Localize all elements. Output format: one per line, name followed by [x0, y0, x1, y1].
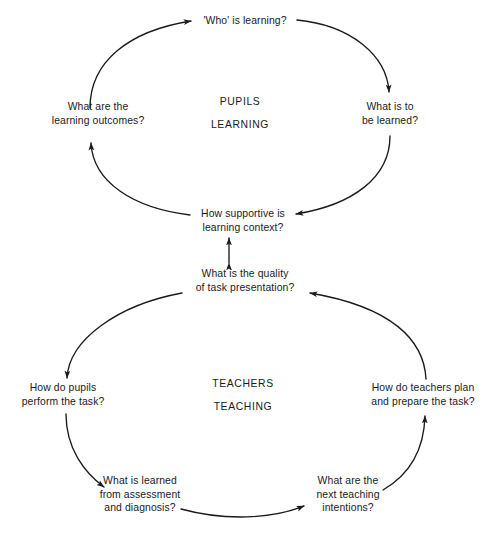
- node-who-is-learning-line1: 'Who' is learning?: [203, 14, 286, 28]
- node-what-are-learning-outcomes: What are the learning outcomes?: [52, 100, 145, 127]
- arc-bottom-left-upper: [67, 293, 182, 378]
- node-next-teaching-line1: What are the: [316, 474, 379, 488]
- diagram-canvas: 'Who' is learning? What is to be learned…: [0, 0, 488, 538]
- node-learning-outcomes-line1: What are the: [52, 100, 145, 114]
- arc-bottom-right-upper: [310, 293, 426, 379]
- node-what-is-to-be-learned-line2: be learned?: [362, 114, 418, 128]
- node-next-teaching-line2: next teaching: [316, 487, 379, 501]
- arc-bottom-left-lower: [66, 414, 104, 487]
- hub-learning-label: LEARNING: [211, 118, 269, 132]
- node-task-presentation-line2: of task presentation?: [196, 281, 295, 295]
- hub-teaching-label: TEACHING: [212, 400, 274, 414]
- node-how-supportive-line2: learning context?: [201, 221, 285, 235]
- hub-teachers-label: TEACHERS: [212, 377, 274, 391]
- hub-label-pupils-learning: PUPILS LEARNING: [211, 95, 269, 131]
- node-learning-outcomes-line2: learning outcomes?: [52, 114, 145, 128]
- node-quality-of-task-presentation: What is the quality of task presentation…: [196, 267, 295, 294]
- arc-top-left-upper: [90, 21, 191, 108]
- node-how-do-pupils-perform-task: How do pupils perform the task?: [22, 381, 105, 408]
- node-how-supportive-line1: How supportive is: [201, 207, 285, 221]
- node-who-is-learning: 'Who' is learning?: [203, 14, 286, 28]
- arc-bottom-bottom: [181, 506, 304, 517]
- node-what-is-learned-line3: and diagnosis?: [100, 501, 181, 515]
- node-next-teaching-intentions: What are the next teaching intentions?: [316, 474, 379, 515]
- arc-top-right-lower: [296, 136, 390, 214]
- hub-label-teachers-teaching: TEACHERS TEACHING: [212, 377, 274, 413]
- node-task-presentation-line1: What is the quality: [196, 267, 295, 281]
- arc-top-left-lower: [91, 143, 190, 215]
- node-teachers-plan-line1: How do teachers plan: [371, 381, 474, 395]
- node-what-is-learned-line2: from assessment: [100, 487, 181, 501]
- node-what-is-to-be-learned: What is to be learned?: [362, 100, 418, 127]
- node-teachers-plan-line2: and prepare the task?: [371, 395, 474, 409]
- hub-pupils-label: PUPILS: [211, 95, 269, 109]
- arc-top-right-upper: [297, 20, 389, 92]
- node-next-teaching-line3: intentions?: [316, 501, 379, 515]
- node-what-is-learned-from-assessment: What is learned from assessment and diag…: [100, 474, 181, 515]
- node-what-is-learned-line1: What is learned: [100, 474, 181, 488]
- node-pupils-perform-line2: perform the task?: [22, 395, 105, 409]
- node-pupils-perform-line1: How do pupils: [22, 381, 105, 395]
- node-how-supportive-learning-context: How supportive is learning context?: [201, 207, 285, 234]
- node-what-is-to-be-learned-line1: What is to: [362, 100, 418, 114]
- node-how-do-teachers-plan-task: How do teachers plan and prepare the tas…: [371, 381, 474, 408]
- arc-bottom-right-lower: [383, 416, 425, 490]
